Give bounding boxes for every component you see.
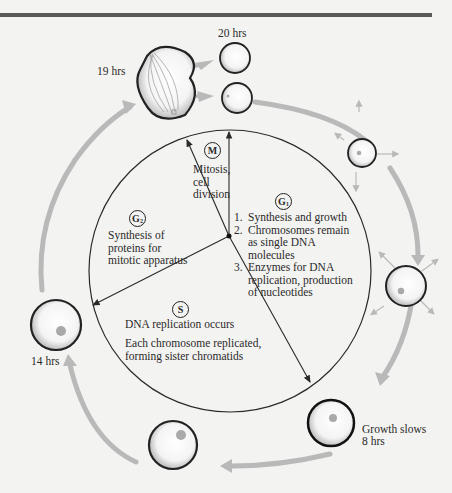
top-rule <box>0 13 432 17</box>
phase-badge-g2: G2 <box>129 210 146 227</box>
label-growth-slows: Growth slows <box>362 423 426 436</box>
label-20hrs: 20 hrs <box>218 27 246 40</box>
phase-badge-g1: G1 <box>275 193 292 210</box>
dividing-cell-19hrs <box>137 47 195 119</box>
daughter-cell-top <box>220 43 250 73</box>
cell-cycle-diagram <box>0 0 452 493</box>
label-14hrs: 14 hrs <box>31 355 59 368</box>
phase-badge-s: S <box>172 301 189 318</box>
nucleus <box>56 326 66 336</box>
nucleus <box>227 95 230 98</box>
cell-s-phase <box>149 421 197 469</box>
g1-item-3: 3.Enzymes for DNAreplication, production… <box>234 261 353 299</box>
s-description-main: DNA replication occurs <box>125 318 234 331</box>
cell-g1-early <box>348 139 376 167</box>
mitosis-description: Mitosis, cell division <box>193 163 230 201</box>
daughter-cell-bottom <box>222 83 252 113</box>
phase-badge-m: M <box>204 142 221 159</box>
cell-14hrs <box>31 300 81 350</box>
nucleus <box>176 430 186 440</box>
g1-item-1: 1.Synthesis and growth <box>234 211 353 224</box>
label-8hrs: 8 hrs <box>362 435 385 448</box>
g2-description: Synthesis of proteins for mitotic appara… <box>108 229 188 267</box>
label-19hrs: 19 hrs <box>97 65 125 78</box>
cell-8hrs <box>308 400 354 446</box>
nucleus <box>398 288 404 294</box>
hub <box>227 234 232 239</box>
g1-item-2: 2.Chromosomes remainas single DNAmolecul… <box>234 224 353 262</box>
nucleus <box>357 151 362 156</box>
s-description-detail: Each chromosome replicated, forming sist… <box>125 337 261 362</box>
g1-description: 1.Synthesis and growth 2.Chromosomes rem… <box>234 211 353 299</box>
nucleus <box>329 414 337 422</box>
cell-g1-growing <box>386 266 426 306</box>
